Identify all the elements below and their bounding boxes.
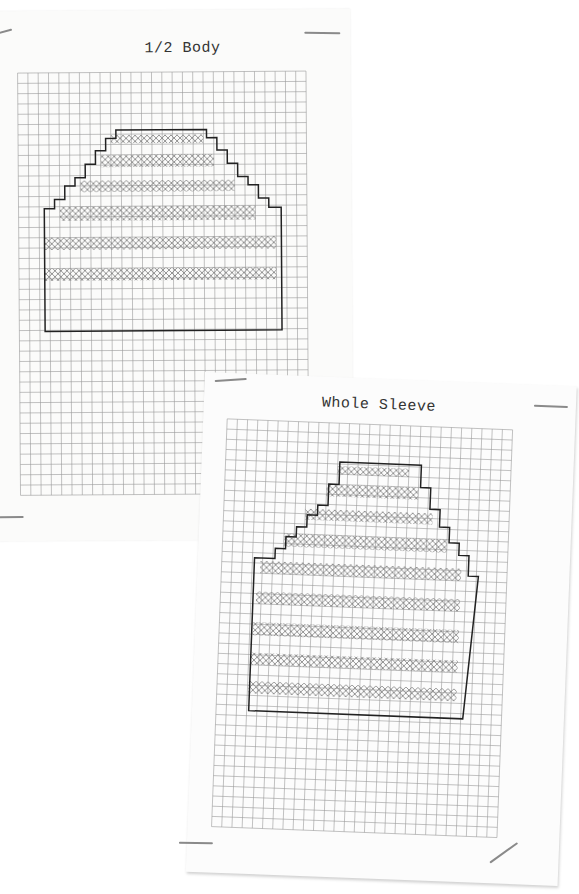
staple [215,378,247,382]
chart-sheet-whole-sleeve: Whole Sleeve [186,372,577,886]
sheet-title: Whole Sleeve [322,395,437,416]
staple [179,842,213,845]
staple [0,29,12,36]
staple [534,405,568,408]
staple [489,842,518,864]
sheet-title: 1/2 Body [144,40,220,58]
staple [0,516,24,518]
graph-grid [211,419,517,840]
staple [304,32,340,34]
